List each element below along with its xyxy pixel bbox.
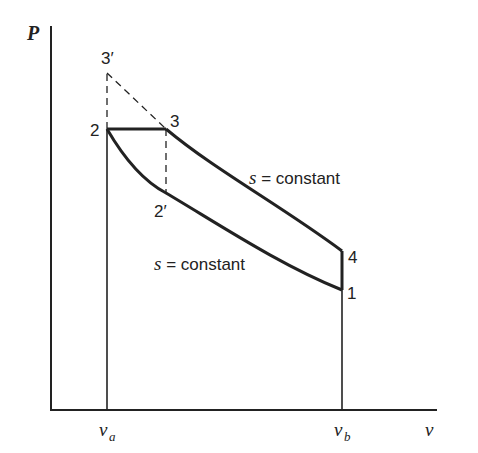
point-label-1: 1 (347, 284, 356, 303)
dashed-3prime-to-3 (107, 73, 166, 129)
point-label-3prime: 3′ (101, 49, 114, 68)
tick-va: v a (99, 419, 116, 444)
svg-text:b: b (344, 429, 351, 444)
point-label-3: 3 (170, 112, 179, 131)
svg-text:s = constant: s = constant (249, 167, 340, 188)
isentrope-3-4 (166, 129, 342, 251)
svg-text:a: a (109, 429, 116, 444)
x-axis-label: v (425, 419, 434, 440)
svg-text:s = constant: s = constant (154, 253, 245, 274)
point-label-2prime: 2′ (154, 202, 167, 221)
pv-diagram: P v v a v b 3′ 2 3 2′ 4 1 s = constant s… (0, 0, 478, 453)
point-label-4: 4 (348, 248, 357, 267)
lower-curve-label: s = constant (154, 253, 245, 274)
svg-text:v: v (334, 419, 343, 440)
tick-vb: v b (334, 419, 351, 444)
y-axis-label: P (26, 22, 40, 44)
point-label-2: 2 (90, 121, 99, 140)
upper-curve-label: s = constant (249, 167, 340, 188)
svg-text:v: v (99, 419, 108, 440)
